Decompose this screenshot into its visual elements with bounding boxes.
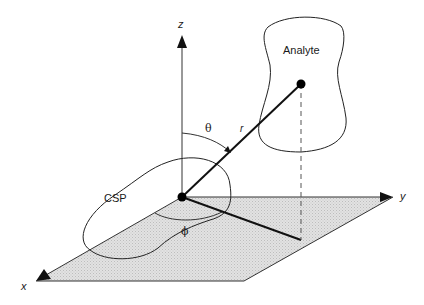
theta-label: θ xyxy=(205,123,212,134)
csp-origin-point xyxy=(178,193,187,202)
y-axis-label: y xyxy=(400,191,406,202)
csp-label: CSP xyxy=(104,193,127,204)
coordinate-diagram xyxy=(0,0,424,305)
phi-label: ϕ xyxy=(181,226,189,237)
x-axis-label: x xyxy=(21,281,27,292)
analyte-point xyxy=(297,80,306,89)
r-label: r xyxy=(240,124,243,134)
analyte-label: Analyte xyxy=(283,45,320,56)
theta-arc xyxy=(182,133,229,151)
z-axis-label: z xyxy=(178,19,184,30)
z-axis-arrowhead xyxy=(177,35,187,48)
